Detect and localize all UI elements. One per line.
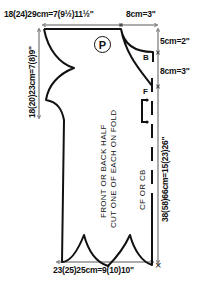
- right-length-label: 38(58)66cm=15(23)26": [161, 137, 170, 222]
- right-middle-label: 8cm=3": [160, 67, 190, 76]
- sewing-pattern-diagram: 18(24)29cm=7(9½)11½" 8cm=3" 18(20)23cm=7…: [0, 0, 207, 291]
- fold-label: CF OR CB: [139, 169, 147, 210]
- top-right-width-label: 8cm=3": [126, 10, 156, 19]
- notch-label-b: B: [143, 54, 149, 62]
- notch-label-f: F: [143, 88, 148, 96]
- left-height-label: 18(20)23cm=7(8)9": [28, 46, 37, 118]
- right-upper-label: 5cm=2": [160, 37, 190, 46]
- grainline-bracket: [142, 100, 147, 122]
- bottom-width-label: 23(25)25cm=9(10)10": [53, 266, 134, 275]
- piece-instruction-line2: CUT ONE OF EACH ON FOLD: [110, 110, 118, 228]
- top-width-label: 18(24)29cm=7(9½)11½": [4, 10, 94, 19]
- piece-symbol-badge: P: [94, 36, 111, 53]
- piece-instruction-line1: FRONT OR BACK HALF: [100, 124, 108, 218]
- corner-mark: ×: [155, 260, 161, 271]
